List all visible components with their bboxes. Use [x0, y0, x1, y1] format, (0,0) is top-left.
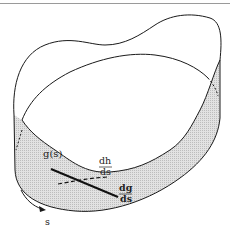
label-dh-ds: ds [100, 166, 111, 177]
label-dg: dg [119, 182, 133, 193]
label-dh: dh [99, 155, 111, 166]
figure-canvas: g(s) dh ds dg ds s [0, 0, 230, 233]
cylinder-diagram: g(s) dh ds dg ds s [0, 0, 230, 233]
label-g-s: g(s) [43, 148, 62, 159]
label-dg-ds: ds [120, 193, 132, 204]
shaded-band [14, 60, 220, 211]
label-s: s [45, 216, 50, 227]
inner-curve [22, 54, 208, 120]
s-arrowhead-icon [39, 206, 46, 212]
